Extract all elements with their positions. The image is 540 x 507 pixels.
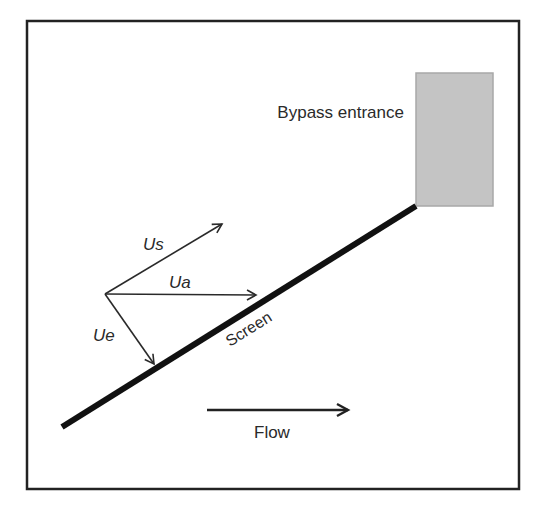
ua-vector-arrow [105, 294, 256, 295]
ua-label: Ua [169, 273, 191, 292]
bypass-screen-diagram: Bypass entrance Screen Us Ua Ue Flow [0, 0, 540, 507]
flow-label: Flow [254, 423, 291, 442]
us-label: Us [143, 235, 164, 254]
bypass-entrance-label: Bypass entrance [277, 103, 404, 122]
ue-label: Ue [93, 326, 115, 345]
bypass-entrance-box [416, 73, 493, 206]
